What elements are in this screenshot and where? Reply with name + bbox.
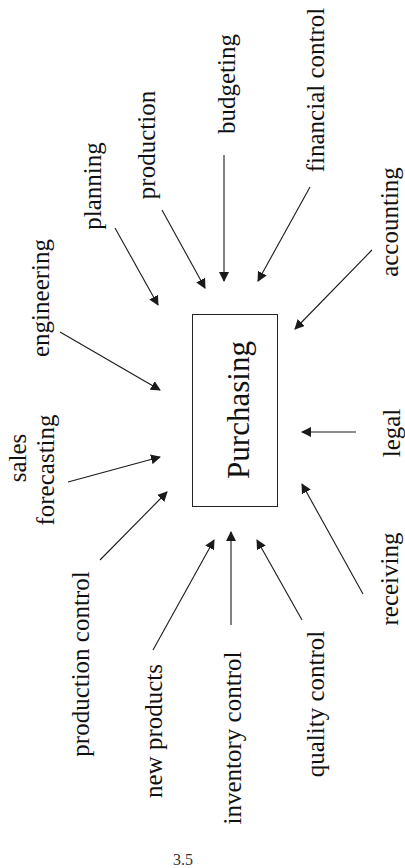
engineering-label: engineering [28, 239, 53, 357]
accounting-label: accounting [377, 167, 402, 277]
arrow-accounting [295, 250, 372, 329]
receiving-label: receiving [377, 532, 402, 625]
production-label: production [134, 91, 159, 199]
planning-label: planning [80, 142, 105, 230]
arrow-financial-control [258, 187, 310, 281]
production-control-label: production control [68, 571, 93, 756]
figure-number: 3.5 [173, 852, 193, 868]
arrow-production [162, 210, 205, 288]
legal-label: legal [379, 409, 404, 458]
new-products-label: new products [141, 664, 166, 798]
purchasing-label: Purchasing [223, 341, 254, 479]
financial-control-label: financial control [303, 8, 328, 173]
forecasting-label: forecasting [33, 414, 58, 525]
arrow-quality-control [257, 540, 302, 620]
arrow-engineering [60, 332, 160, 390]
arrow-production-control [100, 492, 167, 560]
quality-control-label: quality control [303, 631, 328, 778]
arrow-planning [115, 228, 158, 305]
arrow-receiving [302, 484, 363, 594]
arrow-new-products [153, 540, 214, 650]
sales-label: sales [5, 434, 30, 483]
budgeting-label: budgeting [214, 34, 239, 134]
arrow-sales-forecasting [68, 457, 160, 482]
inventory-control-label: inventory control [220, 652, 245, 825]
